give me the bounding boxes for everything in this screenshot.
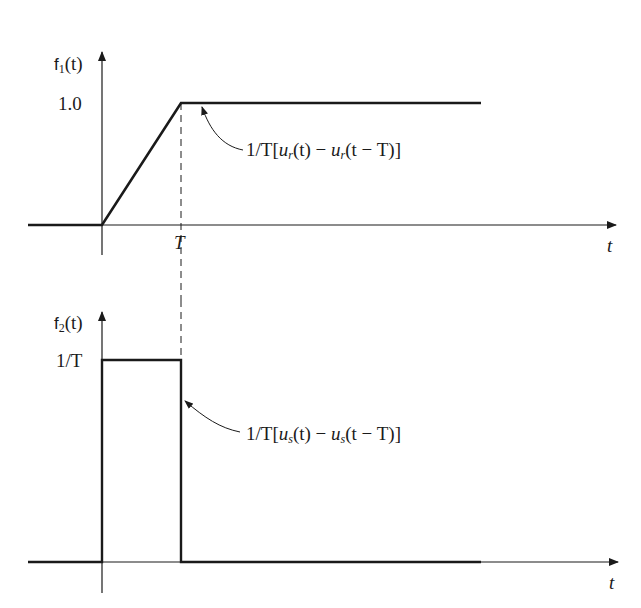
bottom-plot — [28, 300, 618, 593]
pulse-annotation: 1/T[us(t) − us(t − T)] — [246, 424, 401, 445]
ramp-curve — [28, 103, 481, 225]
bottom-ytick-label: 1/T — [56, 351, 82, 370]
top-plot — [28, 52, 616, 300]
bottom-xlabel: t — [609, 573, 614, 592]
ramp-pointer-arrow — [202, 107, 243, 150]
pulse-pointer-arrow — [185, 401, 240, 432]
top-ylabel: f1(t) — [54, 54, 83, 75]
pulse-curve — [28, 360, 481, 562]
bottom-ylabel: f2(t) — [54, 313, 83, 334]
ramp-annotation: 1/T[ur(t) − ur(t − T)] — [246, 140, 401, 161]
T-xtick-label: T — [174, 233, 185, 252]
diagram-graphics — [0, 0, 641, 608]
top-ytick-label: 1.0 — [58, 94, 82, 113]
top-xlabel: t — [607, 236, 612, 255]
signal-diagram: f1(t) 1.0 T t 1/T[ur(t) − ur(t − T)] f2(… — [0, 0, 641, 608]
